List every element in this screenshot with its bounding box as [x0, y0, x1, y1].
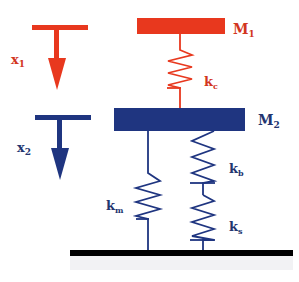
kc-spring-icon — [168, 34, 192, 108]
ground-line — [70, 250, 293, 256]
diagram-svg: x1 M1 kc M2 x2 km kb ks — [0, 0, 299, 282]
spring-mass-diagram: x1 M1 kc M2 x2 km kb ks — [0, 0, 299, 282]
kb-spring-icon — [192, 131, 214, 195]
x2-label: x2 — [17, 140, 31, 157]
kb-label: kb — [229, 161, 244, 178]
kc-label: kc — [204, 74, 218, 91]
x1-arrow-icon — [32, 25, 88, 90]
x1-label: x1 — [11, 52, 25, 69]
km-spring-icon — [136, 131, 160, 251]
m1-mass-block — [137, 18, 225, 34]
m2-label: M2 — [258, 112, 280, 130]
ks-spring-icon — [192, 195, 214, 251]
ground-shadow — [70, 256, 293, 270]
m1-label: M1 — [233, 21, 255, 39]
ks-label: ks — [229, 219, 243, 236]
m2-mass-block — [114, 108, 245, 131]
x2-arrow-icon — [35, 115, 91, 180]
km-label: km — [106, 198, 124, 215]
